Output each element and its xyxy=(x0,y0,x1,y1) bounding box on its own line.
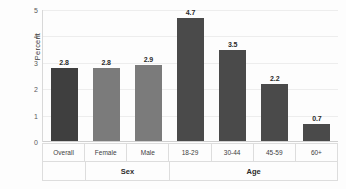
y-axis-ticks: 012345 xyxy=(22,10,38,142)
bar[interactable] xyxy=(177,18,204,142)
y-tick-label: 5 xyxy=(22,7,38,14)
bar-slot: 2.8 xyxy=(85,10,127,142)
x-axis-category-label: 45-59 xyxy=(254,144,296,161)
plot-area: 2.82.82.94.73.52.20.7 xyxy=(42,10,338,142)
x-axis-table: OverallFemaleMale18-2930-4445-5960+ SexA… xyxy=(42,143,338,181)
bar-slot: 2.2 xyxy=(254,10,296,142)
bar[interactable] xyxy=(261,84,288,142)
x-axis-group-label: Sex xyxy=(86,162,170,180)
bar-value-label: 3.5 xyxy=(212,41,254,48)
bar-value-label: 2.8 xyxy=(85,59,127,66)
bar-value-label: 2.8 xyxy=(43,59,85,66)
bar-slot: 3.5 xyxy=(212,10,254,142)
bar-slot: 4.7 xyxy=(169,10,211,142)
bar-slot: 2.9 xyxy=(127,10,169,142)
x-axis-group-spacer xyxy=(43,162,86,180)
bar-value-label: 2.2 xyxy=(254,75,296,82)
bar[interactable] xyxy=(51,68,78,142)
x-axis-group-row: SexAge xyxy=(43,161,337,180)
x-axis-category-label: Male xyxy=(127,144,169,161)
x-axis-category-label: 18-29 xyxy=(169,144,211,161)
bar[interactable] xyxy=(303,124,330,142)
bar-value-label: 0.7 xyxy=(296,115,338,122)
y-tick-label: 1 xyxy=(22,112,38,119)
bar-slot: 2.8 xyxy=(43,10,85,142)
x-axis-category-label: 60+ xyxy=(296,144,337,161)
y-tick-label: 0 xyxy=(22,139,38,146)
x-axis-group-label: Age xyxy=(170,162,337,180)
bar[interactable] xyxy=(135,65,162,142)
bars-container: 2.82.82.94.73.52.20.7 xyxy=(43,10,338,142)
bar-slot: 0.7 xyxy=(296,10,338,142)
x-axis-category-label: Female xyxy=(85,144,127,161)
y-tick-label: 4 xyxy=(22,33,38,40)
x-axis-category-row: OverallFemaleMale18-2930-4445-5960+ xyxy=(43,144,337,161)
y-tick-label: 3 xyxy=(22,59,38,66)
x-axis-category-label: Overall xyxy=(43,144,85,161)
x-axis-baseline xyxy=(43,141,338,142)
y-tick-label: 2 xyxy=(22,86,38,93)
bar-value-label: 4.7 xyxy=(169,9,211,16)
x-axis-category-label: 30-44 xyxy=(212,144,254,161)
bar-value-label: 2.9 xyxy=(127,56,169,63)
bar[interactable] xyxy=(219,50,246,142)
bar[interactable] xyxy=(93,68,120,142)
bar-chart: Percent 012345 2.82.82.94.73.52.20.7 Ove… xyxy=(0,0,346,189)
